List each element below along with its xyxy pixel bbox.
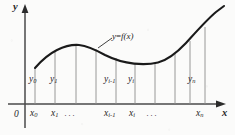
ordinate-yn-sub: n	[192, 77, 195, 84]
ordinate-label-yn: yn	[188, 75, 195, 85]
abscissa-x0-sub: 0	[34, 111, 37, 118]
origin-label: 0	[14, 110, 19, 120]
ordinate-y0-sub: 0	[33, 77, 36, 84]
abscissa-x1-sub: 1	[55, 111, 58, 118]
ordinate-label-y1: y1	[50, 75, 57, 85]
abscissa-label-xi: xi	[129, 109, 135, 119]
y-axis-label: y	[13, 2, 18, 13]
x-axis	[8, 100, 226, 107]
curve-label-leader	[98, 38, 112, 48]
ellipsis-after-xi: ···	[146, 110, 158, 120]
ordinate-yi-sub: i	[132, 77, 134, 84]
ellipsis-after-x1: ···	[64, 110, 76, 120]
x-axis-label: x	[222, 108, 227, 119]
abscissa-label-x0: x0	[30, 109, 37, 119]
abscissa-label-x1: x1	[51, 109, 58, 119]
abscissa-xn-sub: n	[200, 111, 203, 118]
ordinate-label-y0: y0	[29, 75, 36, 85]
abscissa-xi1-sub: i-1	[108, 111, 115, 118]
integral-figure: y x 0 y=f(x) y0 y1 yi-1 yi yn x0 x1 xi-1…	[0, 0, 235, 135]
curve-equation-label: y=f(x)	[112, 32, 134, 41]
abscissa-xi-sub: i	[133, 111, 135, 118]
abscissa-label-xi-1: xi-1	[104, 109, 115, 119]
abscissa-label-xn: xn	[196, 109, 203, 119]
y-axis	[22, 4, 29, 128]
ordinate-label-yi-1: yi-1	[104, 75, 115, 85]
ordinate-y1-sub: 1	[54, 77, 57, 84]
curve-label-fx: f(x)	[121, 31, 134, 41]
ordinate-yi1-sub: i-1	[108, 77, 115, 84]
ordinate-label-yi: yi	[128, 75, 134, 85]
